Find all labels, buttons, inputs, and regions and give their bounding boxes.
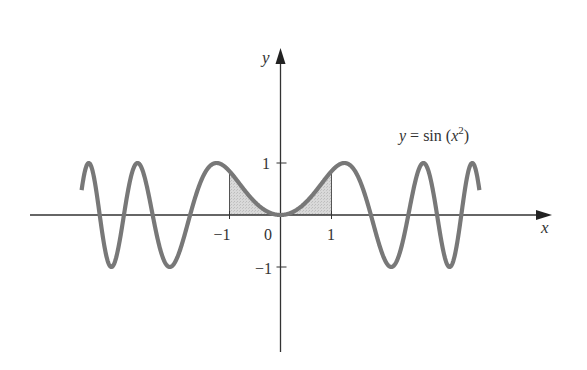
- y-tick-label-neg1: −1: [255, 260, 272, 277]
- function-label-close: ): [464, 127, 469, 145]
- x-tick-label-0: 0: [264, 226, 272, 243]
- function-label-eq: = sin (: [406, 127, 451, 145]
- y-axis-arrowhead-icon: [276, 48, 286, 64]
- function-label: y = sin (x2): [397, 124, 469, 145]
- x-tick-label-1: 1: [327, 226, 335, 243]
- function-label-var: x: [450, 127, 458, 144]
- function-plot: x y −1 0 1 1 −1 y = sin (x2): [0, 0, 587, 370]
- y-axis-label: y: [260, 48, 270, 67]
- x-tick-label-neg1: −1: [213, 226, 230, 243]
- y-tick-label-1: 1: [262, 155, 270, 172]
- x-axis-label: x: [540, 218, 549, 237]
